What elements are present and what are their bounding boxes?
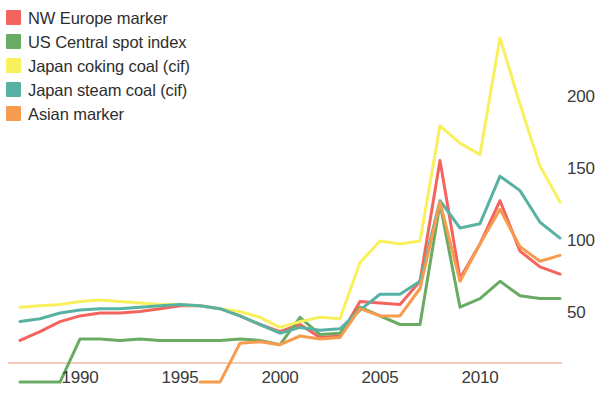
legend-swatch-nw-europe-marker [6,10,21,25]
legend-item: Japan steam coal (cif) [6,78,190,101]
legend-label: Japan steam coal (cif) [28,81,187,99]
legend-item: NW Europe marker [6,6,190,29]
legend-label: Asian marker [28,105,124,123]
x-tick-label: 1990 [61,368,98,388]
chart-legend: NW Europe marker US Central spot index J… [6,6,190,125]
legend-label: NW Europe marker [28,9,168,27]
coal-price-line-chart: NW Europe marker US Central spot index J… [0,0,606,395]
x-tick-label: 2005 [361,368,398,388]
legend-item: US Central spot index [6,30,190,53]
y-tick-label: 150 [567,159,595,179]
legend-label: Japan coking coal (cif) [28,57,190,75]
x-tick-label: 2010 [461,368,498,388]
series-line-nw-europe-marker [20,160,560,340]
legend-swatch-asian-marker [6,106,21,121]
x-tick-label: 2000 [261,368,298,388]
series-line-japan-steam-coal-cif [20,176,560,333]
y-tick-label: 100 [567,231,595,251]
x-tick-label: 1995 [161,368,198,388]
y-tick-label: 50 [567,303,586,323]
legend-item: Japan coking coal (cif) [6,54,190,77]
legend-item: Asian marker [6,102,190,125]
legend-swatch-us-central-spot-index [6,34,21,49]
y-tick-label: 200 [567,87,595,107]
series-line-asian-marker [200,202,560,382]
legend-label: US Central spot index [28,33,186,51]
series-line-us-central-spot-index [20,204,560,383]
legend-swatch-japan-coking-coal [6,58,21,73]
legend-swatch-japan-steam-coal [6,82,21,97]
